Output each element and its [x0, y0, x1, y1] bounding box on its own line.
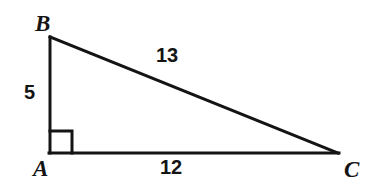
triangle-figure	[0, 0, 367, 189]
side-length-label-bc: 13	[156, 45, 178, 65]
side-bc-hypotenuse	[50, 37, 338, 153]
right-angle-marker-icon	[50, 131, 72, 153]
vertex-label-b: B	[35, 12, 50, 35]
vertex-label-a: A	[33, 157, 48, 180]
side-length-label-ac: 12	[160, 157, 182, 177]
vertex-label-c: C	[344, 158, 359, 181]
diagram-canvas: B A C 5 13 12	[0, 0, 367, 189]
side-length-label-ab: 5	[24, 82, 35, 102]
